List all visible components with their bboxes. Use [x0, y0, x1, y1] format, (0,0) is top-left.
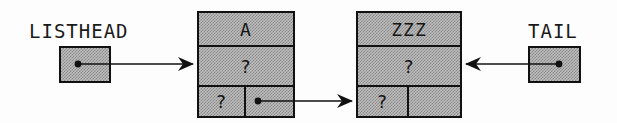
tail-label: TAIL [528, 22, 578, 41]
listhead-label: LISTHEAD [29, 22, 129, 41]
node-a-data: ? [199, 47, 293, 85]
list-node-a[interactable]: A ? ? [197, 11, 295, 118]
node-a-prev-pointer: ? [199, 87, 246, 116]
node-a-data-row: ? [199, 47, 293, 87]
node-zzz-key-row: ZZZ [358, 13, 460, 47]
node-zzz-pointer-row: ? [358, 87, 460, 116]
node-zzz-data-row: ? [358, 47, 460, 87]
linked-list-diagram: LISTHEAD A ? ? ZZZ ? ? TAIL [0, 0, 617, 123]
node-zzz-key: ZZZ [358, 13, 460, 45]
node-a-next-pointer[interactable] [246, 87, 293, 116]
listhead-pointer-box[interactable] [59, 46, 111, 83]
node-zzz-null-pointer [409, 87, 460, 116]
node-zzz-prev-pointer: ? [358, 87, 409, 116]
node-zzz-data: ? [358, 47, 460, 85]
node-a-key-row: A [199, 13, 293, 47]
node-a-pointer-row: ? [199, 87, 293, 116]
list-node-zzz[interactable]: ZZZ ? ? [356, 11, 462, 118]
tail-pointer-box[interactable] [528, 46, 581, 83]
node-a-key: A [199, 13, 293, 45]
